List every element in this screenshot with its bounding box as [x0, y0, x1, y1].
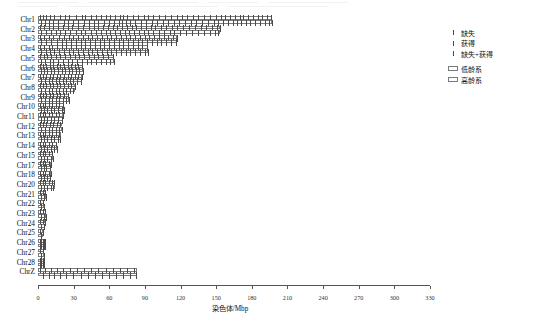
variant-mark [166, 39, 167, 46]
chromosome-row: Chr20 [38, 181, 55, 189]
variant-mark [70, 88, 71, 95]
variant-mark [54, 272, 55, 279]
low-age-bar [38, 191, 46, 195]
variant-mark [186, 30, 187, 37]
chromosome-row: Chr18 [38, 171, 51, 179]
legend-item-high-age-line: 高龄系 [448, 75, 534, 84]
variant-mark [223, 20, 224, 27]
variant-mark [66, 97, 67, 104]
high-age-bar [38, 127, 62, 131]
x-tick-label: 90 [142, 294, 148, 301]
high-age-bar [38, 156, 53, 160]
chromosome-label: Chr1 [20, 16, 35, 23]
chromosome-row: Chr22 [38, 200, 44, 208]
x-tick-label: 0 [36, 294, 39, 301]
variant-mark [87, 59, 88, 66]
plot-area: 0306090120150180210240270300330 Chr1Chr2… [38, 14, 430, 286]
low-age-bar [38, 210, 46, 214]
high-age-bar [38, 234, 43, 238]
legend-label: 获得 [461, 38, 475, 48]
variant-mark [88, 272, 89, 279]
high-age-bar [38, 263, 44, 267]
variant-mark [123, 272, 124, 279]
chromosome-label: Chr20 [17, 181, 35, 188]
chromosome-label: Chr26 [17, 239, 35, 246]
high-age-bar [38, 137, 61, 141]
high-age-bar [38, 50, 148, 54]
chromosome-row: Chr12 [38, 123, 62, 131]
legend-label: 缺失+获得 [461, 49, 493, 59]
chromosome-label: Chr7 [20, 74, 35, 81]
variant-mark [135, 49, 136, 56]
chromosome-label: Chr27 [17, 249, 35, 256]
chromosome-row: Chr15 [38, 152, 53, 160]
variant-mark [204, 30, 205, 37]
variant-mark [250, 20, 251, 27]
x-tick-label: 330 [425, 294, 434, 301]
x-axis-line [38, 285, 430, 286]
high-age-bar [38, 273, 137, 277]
low-age-bar [38, 94, 69, 98]
chromosome-label: Chr9 [20, 94, 35, 101]
variant-mark [69, 97, 70, 104]
high-age-bar [38, 166, 51, 170]
chromosome-row: Chr3 [38, 35, 177, 43]
chromosome-row: Chr11 [38, 113, 63, 121]
x-tick [430, 286, 431, 289]
chromosome-row: Chr17 [38, 162, 51, 170]
chromosome-label: Chr25 [17, 229, 35, 236]
variant-mark [83, 68, 84, 75]
variant-mark [246, 20, 247, 27]
variant-mark [116, 272, 117, 279]
variant-mark [57, 146, 58, 153]
chromosome-label: Chr21 [17, 191, 35, 198]
variant-mark [255, 20, 256, 27]
variant-mark [130, 49, 131, 56]
high-age-bar [38, 59, 114, 63]
variant-mark [237, 20, 238, 27]
x-tick-label: 30 [71, 294, 77, 301]
variant-mark [198, 30, 199, 37]
high-age-bar [38, 185, 55, 189]
variant-mark [180, 30, 181, 37]
variant-mark [81, 78, 82, 85]
chromosome-label: Chr8 [20, 84, 35, 91]
variant-mark [53, 185, 54, 192]
variant-mark [66, 272, 67, 279]
legend-label: 高龄系 [461, 75, 482, 85]
variant-mark [60, 136, 61, 143]
chromosome-row: Chr9 [38, 94, 69, 102]
high-age-bar [38, 117, 63, 121]
variant-mark [148, 49, 149, 56]
x-tick [109, 286, 110, 289]
chromosome-label: Chr12 [17, 123, 35, 130]
variant-mark [171, 39, 172, 46]
variant-mark [260, 20, 261, 27]
variant-mark [44, 224, 45, 231]
variant-mark [272, 20, 273, 27]
legend-tick-icon [448, 41, 458, 46]
x-tick [323, 286, 324, 289]
high-age-bar [38, 176, 51, 180]
chromosome-label: Chr28 [17, 259, 35, 266]
high-age-bar [38, 108, 64, 112]
chromosome-label: Chr4 [20, 45, 35, 52]
chromosome-label: Chr6 [20, 65, 35, 72]
x-tick-label: 210 [283, 294, 292, 301]
legend-box-icon [448, 77, 458, 82]
x-tick [216, 286, 217, 289]
chromosome-row: Chr5 [38, 55, 114, 63]
chromosome-label: Chr3 [20, 35, 35, 42]
variant-mark [210, 30, 211, 37]
variant-mark [110, 59, 111, 66]
chromosome-label: Chr17 [17, 162, 35, 169]
variant-mark [114, 59, 115, 66]
chromosome-label: Chr14 [17, 142, 35, 149]
variant-mark [192, 30, 193, 37]
chromosome-row: Chr2 [38, 26, 220, 34]
chromosome-row: Chr1 [38, 16, 272, 24]
chromosome-row: Chr24 [38, 220, 45, 228]
chromosome-row: Chr26 [38, 239, 45, 247]
variant-mark [136, 272, 137, 279]
high-age-bar [38, 98, 69, 102]
